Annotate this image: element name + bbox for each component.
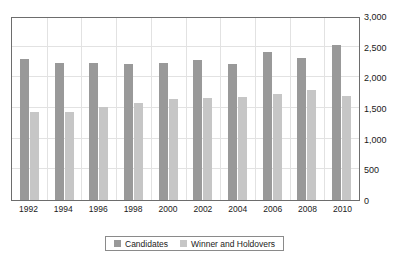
legend-label-winner-holdovers: Winner and Holdovers	[191, 239, 275, 249]
x-tick-2004: 2004	[221, 203, 255, 215]
bar-1998-candidates[interactable]	[124, 64, 133, 200]
bar-group-1998	[124, 18, 143, 200]
y-axis-labels: 05001,0001,5002,0002,5003,000	[364, 17, 416, 201]
bar-groups	[12, 18, 359, 200]
bar-1994-candidates[interactable]	[55, 63, 64, 200]
x-tick-2006: 2006	[256, 203, 290, 215]
bar-2006-candidates[interactable]	[263, 52, 272, 200]
bar-group-2006	[263, 18, 282, 200]
bar-group-2008	[297, 18, 316, 200]
bar-2008-winner-holdovers[interactable]	[307, 90, 316, 200]
bar-group-2002	[193, 18, 212, 200]
plot-area	[11, 17, 360, 201]
bar-group-2004	[228, 18, 247, 200]
bar-1996-candidates[interactable]	[89, 63, 98, 200]
bar-1994-winner-holdovers[interactable]	[65, 112, 74, 200]
y-tick-1000: 1,000	[364, 135, 387, 145]
bar-2004-candidates[interactable]	[228, 64, 237, 200]
bar-2006-winner-holdovers[interactable]	[273, 94, 282, 200]
x-tick-2010: 2010	[325, 203, 359, 215]
bar-1992-winner-holdovers[interactable]	[30, 112, 39, 200]
bar-1992-candidates[interactable]	[20, 59, 29, 200]
x-tick-1992: 1992	[11, 203, 45, 215]
bar-2002-winner-holdovers[interactable]	[203, 98, 212, 200]
bar-1996-winner-holdovers[interactable]	[99, 107, 108, 200]
bar-2000-candidates[interactable]	[159, 63, 168, 200]
chart-container: 05001,0001,5002,0002,5003,000 1992199419…	[0, 0, 420, 259]
y-tick-500: 500	[364, 165, 379, 175]
legend-item-winner-holdovers: Winner and Holdovers	[180, 239, 275, 249]
x-tick-1998: 1998	[116, 203, 150, 215]
bar-group-2010	[332, 18, 351, 200]
bar-2004-winner-holdovers[interactable]	[238, 97, 247, 200]
x-axis-labels: 1992199419961998200020022004200620082010	[11, 203, 360, 217]
y-tick-1500: 1,500	[364, 104, 387, 114]
y-tick-2000: 2,000	[364, 73, 387, 83]
x-tick-1994: 1994	[46, 203, 80, 215]
x-tick-2008: 2008	[291, 203, 325, 215]
x-tick-2002: 2002	[186, 203, 220, 215]
y-tick-0: 0	[364, 196, 369, 206]
y-tick-2500: 2,500	[364, 43, 387, 53]
legend-label-candidates: Candidates	[125, 239, 168, 249]
legend-swatch-winner-holdovers-icon	[180, 240, 187, 247]
bar-2002-candidates[interactable]	[193, 60, 202, 200]
x-tick-1996: 1996	[81, 203, 115, 215]
legend-item-candidates: Candidates	[114, 239, 168, 249]
bar-group-1994	[55, 18, 74, 200]
plot-inner	[12, 18, 359, 200]
bar-group-1992	[20, 18, 39, 200]
chart-title	[8, 0, 338, 7]
x-tick-2000: 2000	[151, 203, 185, 215]
bar-2008-candidates[interactable]	[297, 58, 306, 200]
bar-group-2000	[159, 18, 178, 200]
y-tick-3000: 3,000	[364, 12, 387, 22]
chart-legend: Candidates Winner and Holdovers	[105, 236, 284, 251]
bar-2010-winner-holdovers[interactable]	[342, 96, 351, 200]
bar-1998-winner-holdovers[interactable]	[134, 103, 143, 200]
bar-2000-winner-holdovers[interactable]	[169, 99, 178, 200]
legend-swatch-candidates-icon	[114, 240, 121, 247]
bar-group-1996	[89, 18, 108, 200]
bar-2010-candidates[interactable]	[332, 45, 341, 200]
